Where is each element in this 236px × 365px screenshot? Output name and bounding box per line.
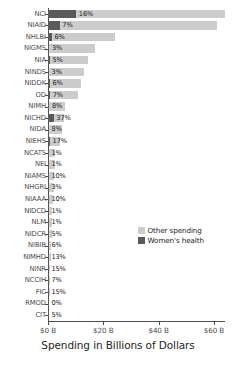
bar-percent-label: 1% bbox=[51, 206, 61, 216]
y-tick-label: NEI bbox=[2, 159, 46, 170]
bar-segment-womens-health bbox=[48, 91, 50, 100]
bar-segment-womens-health bbox=[48, 241, 49, 250]
bar-percent-label: 8% bbox=[52, 101, 62, 111]
bar-percent-label: 15% bbox=[51, 287, 65, 297]
x-axis-title: Spending in Billions of Dollars bbox=[0, 339, 236, 351]
y-tick-label: NIGMS bbox=[2, 43, 46, 54]
bar-segment-womens-health bbox=[48, 253, 49, 262]
bar-percent-label: 16% bbox=[79, 9, 93, 19]
bar-percent-label: 37% bbox=[56, 113, 70, 123]
y-tick-mark bbox=[45, 165, 48, 166]
y-tick-mark bbox=[45, 107, 48, 108]
bar-percent-label: 6% bbox=[55, 32, 65, 42]
bar-segment-womens-health bbox=[48, 125, 49, 134]
bar-percent-label: 17% bbox=[53, 136, 67, 146]
y-tick-mark bbox=[45, 315, 48, 316]
bar-row: 5% bbox=[48, 310, 225, 321]
y-tick-label: NIMHD bbox=[2, 252, 46, 263]
bar-percent-label: 1% bbox=[51, 217, 61, 227]
y-tick-label: NIAAA bbox=[2, 194, 46, 205]
bar-segment-womens-health bbox=[48, 10, 76, 19]
bar-segment-womens-health bbox=[48, 114, 54, 123]
bar-segment-womens-health bbox=[48, 149, 49, 158]
bar-percent-label: 7% bbox=[51, 275, 61, 285]
bar-segment-womens-health bbox=[48, 195, 49, 204]
y-tick-label: NHGRI bbox=[2, 182, 46, 193]
y-tick-label: FIC bbox=[2, 287, 46, 298]
x-tick-label: $60 B bbox=[204, 326, 224, 335]
bar-segment-womens-health bbox=[48, 68, 49, 77]
y-tick-mark bbox=[45, 95, 48, 96]
bar-segment-womens-health bbox=[48, 102, 49, 111]
plot-area: 16%7%6%3%5%3%6%7%8%37%8%17%1%1%10%3%10%1… bbox=[48, 8, 225, 321]
bar-row: 3% bbox=[48, 67, 225, 78]
bar-segment-womens-health bbox=[48, 33, 52, 42]
y-tick-mark bbox=[45, 118, 48, 119]
y-tick-mark bbox=[45, 246, 48, 247]
spending-bar-chart: 16%7%6%3%5%3%6%7%8%37%8%17%1%1%10%3%10%1… bbox=[0, 0, 236, 365]
y-tick-mark bbox=[45, 269, 48, 270]
bar-row: 8% bbox=[48, 101, 225, 112]
y-tick-label: NIDCD bbox=[2, 206, 46, 217]
y-tick-mark bbox=[45, 211, 48, 212]
bar-row: 10% bbox=[48, 171, 225, 182]
x-tick-mark bbox=[48, 322, 49, 325]
y-tick-label: NIDDK bbox=[2, 78, 46, 89]
legend-label-other-spending: Other spending bbox=[148, 226, 202, 236]
bar-row: 5% bbox=[48, 55, 225, 66]
legend-swatch-other-spending bbox=[138, 227, 145, 235]
y-tick-label: NIAMS bbox=[2, 171, 46, 182]
bar-row: 10% bbox=[48, 194, 225, 205]
y-tick-label: NIMH bbox=[2, 101, 46, 112]
bar-row: 1% bbox=[48, 159, 225, 170]
bar-row: 3% bbox=[48, 182, 225, 193]
x-tick-label: $20 B bbox=[93, 326, 113, 335]
bar-segment-womens-health bbox=[48, 299, 49, 308]
bar-segment-womens-health bbox=[48, 288, 49, 297]
bar-row: 0% bbox=[48, 298, 225, 309]
y-tick-mark bbox=[45, 60, 48, 61]
bar-percent-label: 10% bbox=[51, 194, 65, 204]
bar-percent-label: 5% bbox=[51, 310, 61, 320]
y-tick-label: NIAID bbox=[2, 20, 46, 31]
y-tick-label: NIA bbox=[2, 55, 46, 66]
bar-segment-womens-health bbox=[48, 160, 49, 169]
y-tick-label: NHLBI bbox=[2, 32, 46, 43]
bar-percent-label: 6% bbox=[52, 78, 62, 88]
bar-row: 7% bbox=[48, 20, 225, 31]
bar-row: 6% bbox=[48, 32, 225, 43]
y-tick-mark bbox=[45, 153, 48, 154]
x-tick-label: $40 B bbox=[148, 326, 168, 335]
bar-row: 3% bbox=[48, 43, 225, 54]
bar-row: 8% bbox=[48, 124, 225, 135]
x-tick-mark bbox=[159, 322, 160, 325]
bar-row: 13% bbox=[48, 252, 225, 263]
bar-segment-womens-health bbox=[48, 21, 60, 30]
y-tick-mark bbox=[45, 280, 48, 281]
y-tick-mark bbox=[45, 141, 48, 142]
x-tick-label: $0 B bbox=[40, 326, 56, 335]
y-tick-mark bbox=[45, 83, 48, 84]
y-tick-label: CIT bbox=[2, 310, 46, 321]
legend-swatch-womens-health bbox=[138, 237, 145, 245]
x-tick-mark bbox=[214, 322, 215, 325]
bar-row: 6% bbox=[48, 78, 225, 89]
bar-percent-label: 0% bbox=[51, 298, 61, 308]
y-tick-mark bbox=[45, 199, 48, 200]
bar-segment-womens-health bbox=[48, 311, 49, 320]
bar-segment-womens-health bbox=[48, 44, 49, 53]
y-tick-mark bbox=[45, 176, 48, 177]
y-tick-mark bbox=[45, 304, 48, 305]
bar-segment-womens-health bbox=[48, 265, 49, 274]
y-tick-mark bbox=[45, 14, 48, 15]
bar-segment-womens-health bbox=[48, 79, 50, 88]
y-tick-label: NIDCR bbox=[2, 229, 46, 240]
y-tick-label: NIBIB bbox=[2, 240, 46, 251]
y-tick-mark bbox=[45, 188, 48, 189]
bar-percent-label: 3% bbox=[52, 43, 62, 53]
y-tick-label: RMOD bbox=[2, 298, 46, 309]
bar-row: 1% bbox=[48, 148, 225, 159]
y-tick-label: NIDA bbox=[2, 124, 46, 135]
bar-percent-label: 5% bbox=[51, 229, 61, 239]
bar-percent-label: 3% bbox=[51, 182, 61, 192]
